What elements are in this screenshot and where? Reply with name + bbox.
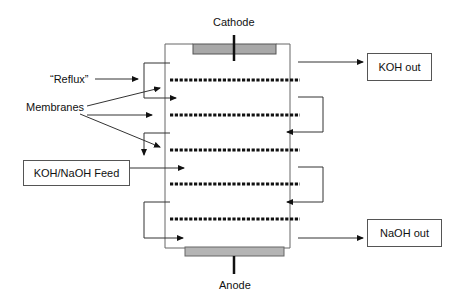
reflux-label: “Reflux”	[50, 74, 89, 85]
cathode-label: Cathode	[213, 17, 255, 28]
membrane-pointers	[80, 88, 160, 147]
anode-label: Anode	[219, 280, 251, 291]
cell-outline	[165, 44, 290, 248]
feed-box: KOH/NaOH Feed	[23, 160, 130, 186]
membranes-label: Membranes	[26, 102, 84, 113]
naoh-out-box: NaOH out	[367, 219, 442, 247]
anode-electrode	[185, 247, 284, 274]
diagram-canvas	[0, 0, 460, 301]
koh-out-box: KOH out	[367, 53, 432, 81]
cathode-electrode	[193, 35, 276, 61]
membranes	[170, 80, 300, 219]
